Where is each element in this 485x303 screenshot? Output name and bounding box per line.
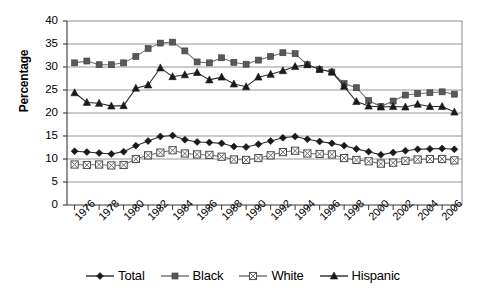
data-point-square-x-marker xyxy=(304,150,311,157)
data-point-diamond-marker xyxy=(304,136,311,143)
legend-label: Hispanic xyxy=(352,268,400,283)
data-point-square-marker xyxy=(280,50,286,56)
legend-item-total[interactable]: Total xyxy=(85,268,144,283)
data-point-square-x-marker xyxy=(279,149,286,156)
data-point-diamond-marker xyxy=(169,132,176,139)
data-point-square-marker xyxy=(402,92,408,98)
data-point-square-x-marker xyxy=(194,151,201,158)
data-point-square-x-marker xyxy=(181,150,188,157)
data-point-diamond-marker xyxy=(132,142,139,149)
data-point-square-marker xyxy=(427,90,433,96)
data-point-square-marker xyxy=(415,91,421,97)
series-black xyxy=(72,39,458,109)
data-point-diamond-marker xyxy=(402,147,409,154)
data-point-square-marker xyxy=(121,60,127,66)
data-point-diamond-marker xyxy=(71,148,78,155)
data-point-diamond-marker xyxy=(390,149,397,156)
data-point-diamond-marker xyxy=(377,151,384,158)
data-point-square-marker xyxy=(194,59,200,65)
data-point-square-x-marker xyxy=(250,272,257,279)
data-point-square-x-marker xyxy=(218,153,225,160)
data-point-square-marker xyxy=(231,59,237,65)
data-point-square-x-marker xyxy=(439,155,446,162)
data-point-triangle-marker xyxy=(193,69,200,76)
legend-marker-square-x-icon xyxy=(238,269,268,283)
data-point-square-marker xyxy=(292,51,298,57)
data-point-diamond-marker xyxy=(218,140,225,147)
data-point-square-x-marker xyxy=(451,157,458,164)
data-point-square-x-marker xyxy=(71,161,78,168)
y-tick-marks xyxy=(63,21,67,205)
data-point-triangle-marker xyxy=(414,100,421,107)
data-point-square-marker xyxy=(72,60,78,66)
data-point-square-marker xyxy=(255,57,261,63)
data-point-square-marker xyxy=(219,55,225,61)
data-point-diamond-marker xyxy=(83,149,90,156)
data-point-square-x-marker xyxy=(292,147,299,154)
legend-item-black[interactable]: Black xyxy=(160,268,224,283)
chart-container: Percentage 4035302520151050 197619781980… xyxy=(0,0,485,303)
data-point-square-x-marker xyxy=(206,151,213,158)
legend-marker-square-icon xyxy=(160,269,190,283)
data-point-diamond-marker xyxy=(181,136,188,143)
legend-item-white[interactable]: White xyxy=(238,268,303,283)
data-point-square-x-marker xyxy=(255,154,262,161)
data-point-square-marker xyxy=(84,58,90,64)
data-point-square-x-marker xyxy=(230,156,237,163)
data-point-diamond-marker xyxy=(267,138,274,145)
data-point-triangle-marker xyxy=(230,80,237,87)
data-point-diamond-marker xyxy=(439,145,446,152)
data-point-diamond-marker xyxy=(108,150,115,157)
data-point-triangle-marker xyxy=(451,108,458,115)
plot-area xyxy=(0,0,485,303)
data-point-diamond-marker xyxy=(328,140,335,147)
data-point-square-x-marker xyxy=(353,156,360,163)
data-point-diamond-marker xyxy=(120,148,127,155)
data-point-square-marker xyxy=(170,39,176,45)
data-point-square-marker xyxy=(353,85,359,91)
data-point-diamond-marker xyxy=(243,144,250,151)
data-point-square-marker xyxy=(268,53,274,59)
data-point-triangle-marker xyxy=(83,98,90,105)
data-point-square-marker xyxy=(145,46,151,52)
data-point-square-x-marker xyxy=(414,156,421,163)
data-point-square-x-marker xyxy=(145,152,152,159)
legend-label: Black xyxy=(193,268,224,283)
data-point-diamond-marker xyxy=(426,145,433,152)
data-point-square-marker xyxy=(182,48,188,54)
data-point-diamond-marker xyxy=(206,139,213,146)
legend-label: Total xyxy=(118,268,144,283)
data-point-diamond-marker xyxy=(341,142,348,149)
data-point-square-x-marker xyxy=(316,150,323,157)
legend-label: White xyxy=(271,268,303,283)
data-point-square-x-marker xyxy=(108,162,115,169)
data-point-square-marker xyxy=(133,53,139,59)
data-point-diamond-marker xyxy=(353,145,360,152)
data-point-square-x-marker xyxy=(120,161,127,168)
legend-item-hispanic[interactable]: Hispanic xyxy=(319,268,400,283)
data-point-diamond-marker xyxy=(279,134,286,141)
data-point-triangle-marker xyxy=(218,73,225,80)
data-point-square-x-marker xyxy=(426,155,433,162)
series-hispanic xyxy=(71,61,458,115)
data-point-diamond-marker xyxy=(145,138,152,145)
data-point-square-x-marker xyxy=(365,158,372,165)
data-point-diamond-marker xyxy=(255,141,262,148)
data-point-square-x-marker xyxy=(328,151,335,158)
data-point-square-marker xyxy=(108,62,114,68)
data-point-diamond-marker xyxy=(157,133,164,140)
data-point-square-x-marker xyxy=(377,160,384,167)
legend-marker-diamond-icon xyxy=(85,269,115,283)
data-point-square-x-marker xyxy=(95,161,102,168)
data-point-square-marker xyxy=(243,61,249,67)
data-point-diamond-marker xyxy=(97,272,104,279)
data-point-diamond-marker xyxy=(451,146,458,153)
chart-legend: TotalBlackWhiteHispanic xyxy=(0,268,485,283)
data-point-square-x-marker xyxy=(390,159,397,166)
data-point-square-x-marker xyxy=(402,157,409,164)
data-point-square-x-marker xyxy=(83,161,90,168)
data-point-diamond-marker xyxy=(365,148,372,155)
data-point-square-x-marker xyxy=(169,147,176,154)
data-point-square-marker xyxy=(172,273,178,279)
legend-marker-triangle-icon xyxy=(319,269,349,283)
